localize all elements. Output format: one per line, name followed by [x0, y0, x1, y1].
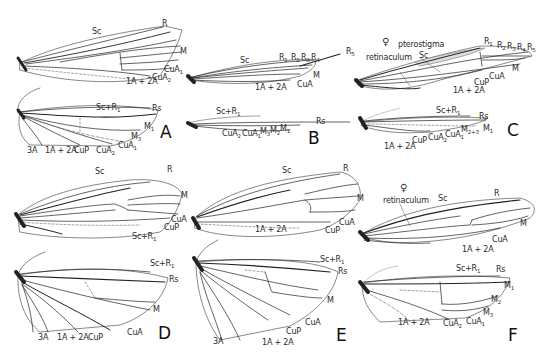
- panel-label-b: B: [308, 130, 320, 147]
- label-d-h-1a2a: 1A + 2A: [57, 334, 89, 342]
- label-c-sc: Sc: [419, 52, 428, 60]
- label-f-h-scr1: Sc+R1: [456, 265, 480, 275]
- panel-d-forewing: [16, 180, 182, 238]
- label-b-h-m2: M2: [270, 127, 280, 137]
- label-f-h-m1: M1: [504, 282, 514, 292]
- panel-label-e: E: [336, 327, 347, 344]
- label-e-h-rs: Rs: [338, 268, 347, 276]
- female-symbol-f: ♀: [400, 183, 407, 193]
- label-c-r5: R5: [527, 44, 536, 54]
- label-a-h-m1: M1: [144, 123, 154, 133]
- label-b-h-m3: M3: [260, 128, 270, 138]
- label-d-h-3a: 3A: [38, 334, 48, 342]
- label-c-pterostigma: pterostigma: [398, 41, 444, 49]
- label-a-r: R: [162, 20, 167, 28]
- label-d-r: R: [167, 166, 172, 174]
- label-b-h-cua1: CuA1: [242, 130, 261, 140]
- c-retinaculum-pointer: [400, 72, 410, 86]
- label-c-1a2a: 1A + 2A: [453, 87, 485, 95]
- label-c-r3: R3: [507, 43, 516, 53]
- label-a-1a2a: 1A + 2A: [126, 78, 158, 86]
- label-a-h-scr1: Sc+R1: [96, 104, 120, 114]
- label-c-h-cua1: CuA1: [445, 131, 464, 141]
- panel-label-f: F: [508, 327, 518, 344]
- label-c-h-rs: Rs: [479, 113, 488, 121]
- label-b-1a2a: 1A + 2A: [255, 84, 287, 92]
- label-d-scr1: Sc+R1: [132, 233, 156, 243]
- label-c-h-m1: M1: [483, 125, 493, 135]
- label-c-r1: R1: [484, 38, 493, 48]
- label-f-h-1a2a: 1A + 2A: [398, 319, 430, 327]
- label-b-r4: R4: [311, 54, 320, 64]
- label-b-r3: R3: [301, 54, 310, 64]
- label-e-cup: CuP: [325, 227, 340, 235]
- f-retinaculum-pointer: [400, 204, 410, 226]
- label-b-h-cua2: CuA2: [222, 130, 241, 140]
- panel-label-a: A: [160, 124, 172, 141]
- female-symbol-c: ♀: [382, 37, 389, 47]
- label-d-h-cup: CuP: [88, 334, 103, 342]
- label-b-h-rs: Rs: [316, 118, 325, 126]
- label-e-h-cua: CuA: [305, 319, 321, 327]
- label-e-m: M: [357, 195, 364, 203]
- label-b-r2: R2: [291, 54, 300, 64]
- label-c-h-cua2: CuA2: [428, 134, 447, 144]
- label-d-h-rs: Rs: [169, 276, 178, 284]
- label-c-retinaculum: retinaculum: [366, 54, 412, 62]
- label-e-1a2a: 1A + 2A: [255, 226, 287, 234]
- label-a-h-1a2a: 1A + 2A: [45, 147, 77, 155]
- label-b-sc: Sc: [240, 57, 249, 65]
- panel-d-hindwing: [16, 252, 168, 332]
- label-f-h-rs: Rs: [496, 266, 505, 274]
- label-d-h-m: M: [153, 306, 160, 314]
- wing-venation-drawing: [0, 0, 554, 358]
- label-c-h-1a2a: 1A + 2A: [384, 143, 416, 151]
- panel-label-c: C: [507, 122, 519, 139]
- label-d-cup: CuP: [164, 224, 179, 232]
- label-e-h-scr1: Sc+R1: [320, 256, 344, 266]
- label-f-h-cua2: CuA2: [443, 320, 462, 330]
- label-c-h-scr1: Sc+R1: [436, 107, 460, 117]
- label-a-m: M: [180, 48, 187, 56]
- panel-label-d: D: [158, 325, 171, 342]
- label-e-cua: CuA: [339, 219, 355, 227]
- label-a-h-cua1: CuA1: [118, 142, 137, 152]
- label-c-m: M: [512, 65, 519, 73]
- label-e-h-3a: 3A: [213, 338, 223, 346]
- label-d-h-scr1: Sc+R1: [150, 260, 174, 270]
- label-f-h-cua1: CuA1: [466, 318, 485, 328]
- label-a-sc: Sc: [92, 28, 101, 36]
- label-e-h-cup: CuP: [286, 328, 301, 336]
- label-f-m: M: [520, 220, 527, 228]
- label-f-cua: CuA: [492, 236, 508, 244]
- label-d-h-cua: CuA: [127, 329, 143, 337]
- label-d-sc: Sc: [95, 168, 104, 176]
- label-e-h-1a2a: 1A + 2A: [262, 339, 294, 347]
- label-a-h-cua2: CuA2: [96, 147, 115, 157]
- label-e-h-m: M: [327, 297, 334, 305]
- label-a-h-rs: Rs: [152, 105, 161, 113]
- label-f-h-m2: M2: [491, 296, 501, 306]
- label-e-sc: Sc: [282, 167, 291, 175]
- label-b-h-scr1: Sc+R1: [216, 108, 240, 118]
- label-c-cua: CuA: [489, 73, 505, 81]
- label-c-r2: R2: [497, 42, 506, 52]
- label-f-r: R: [494, 190, 499, 198]
- label-b-r5: R5: [346, 48, 355, 58]
- label-e-r: R: [343, 165, 348, 173]
- label-f-retinaculum: retinaculum: [383, 197, 429, 205]
- label-f-1a2a: 1A + 2A: [462, 246, 494, 254]
- label-b-cua: CuA: [297, 81, 313, 89]
- label-b-h-m1: M1: [280, 125, 290, 135]
- label-b-m: M: [313, 72, 320, 80]
- label-d-m: M: [181, 192, 188, 200]
- label-c-r4: R4: [517, 44, 526, 54]
- label-a-h-3a: 3A: [27, 147, 37, 155]
- label-b-r1: R1: [279, 54, 288, 64]
- label-f-sc: Sc: [438, 195, 447, 203]
